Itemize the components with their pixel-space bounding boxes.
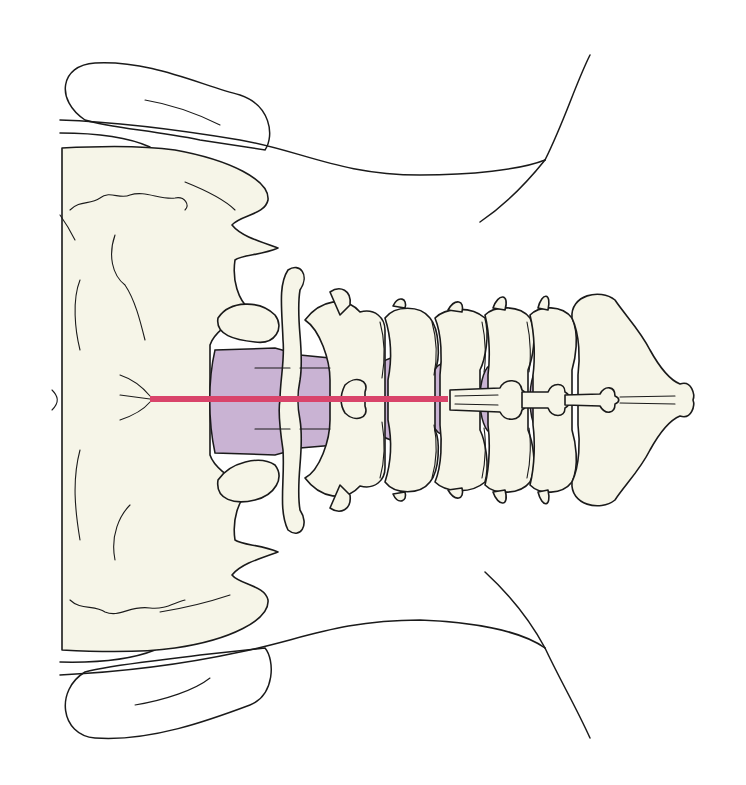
- spine-illustration: [0, 0, 746, 785]
- spine-drawing: [0, 0, 746, 785]
